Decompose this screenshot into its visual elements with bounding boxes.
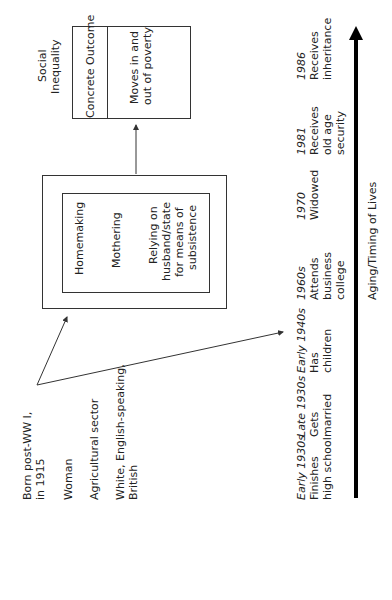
- event-5-date: 1970: [296, 192, 308, 220]
- event-3-date: Early 1940s: [296, 308, 308, 373]
- role-mothering: Mothering: [111, 212, 123, 268]
- event-6-line3: security: [335, 111, 347, 155]
- timeline-arrowhead-icon: [349, 26, 363, 40]
- attribute-born-line1: Born post-WW I,: [22, 412, 34, 500]
- arrow-attributes-to-timeline: [37, 332, 283, 385]
- outcome-value-line2: out of poverty: [142, 27, 154, 105]
- event-7-line1: Receives: [309, 31, 321, 80]
- event-6-date: 1981: [296, 127, 308, 155]
- outcome-divider: [107, 26, 108, 119]
- role-relying-line1: Relying on: [148, 206, 160, 264]
- event-4-date: 1960s: [296, 266, 308, 300]
- social-inequality-heading-2: Inequality: [50, 39, 62, 94]
- event-1-date: Early 1930s: [296, 435, 308, 500]
- event-7-date: 1986: [296, 52, 308, 80]
- social-inequality-heading-1: Social: [37, 49, 49, 82]
- role-homemaking: Homemaking: [74, 202, 86, 275]
- role-relying-line4: subsistence: [187, 205, 199, 270]
- event-3-line1: Has: [309, 352, 321, 373]
- outcome-label: Concrete Outcome: [85, 15, 97, 118]
- event-7-line2: inheritance: [322, 18, 334, 80]
- outcome-value-line1: Moves in and: [129, 31, 141, 104]
- event-3-line2: children: [322, 329, 334, 373]
- attribute-born-line2: in 1915: [35, 458, 47, 500]
- role-relying-line3: for means of: [174, 207, 186, 277]
- event-5-line1: Widowed: [309, 170, 321, 220]
- attribute-agricultural: Agricultural sector: [89, 399, 101, 500]
- event-6-line2: old age: [322, 114, 334, 155]
- event-2-line1: Gets: [309, 412, 321, 437]
- arrow-attributes-to-roles: [37, 317, 67, 385]
- event-4-line2: business: [322, 252, 334, 300]
- role-relying-line2: husband/state: [161, 202, 173, 281]
- event-4-line3: college: [335, 261, 347, 300]
- attribute-white-line1: White, English-speaking,: [115, 364, 127, 500]
- attribute-woman: Woman: [63, 459, 75, 500]
- timeline-axis-label: Aging/Timing of Lives: [367, 182, 379, 300]
- event-6-line1: Receives: [309, 106, 321, 155]
- event-1-line2: high school: [322, 437, 334, 500]
- attribute-white-line2: British: [128, 465, 140, 500]
- event-2-date: Late 1930s: [296, 376, 308, 437]
- event-4-line1: Attends: [309, 258, 321, 300]
- event-1-line1: Finishes: [309, 456, 321, 500]
- event-2-line2: married: [322, 394, 334, 437]
